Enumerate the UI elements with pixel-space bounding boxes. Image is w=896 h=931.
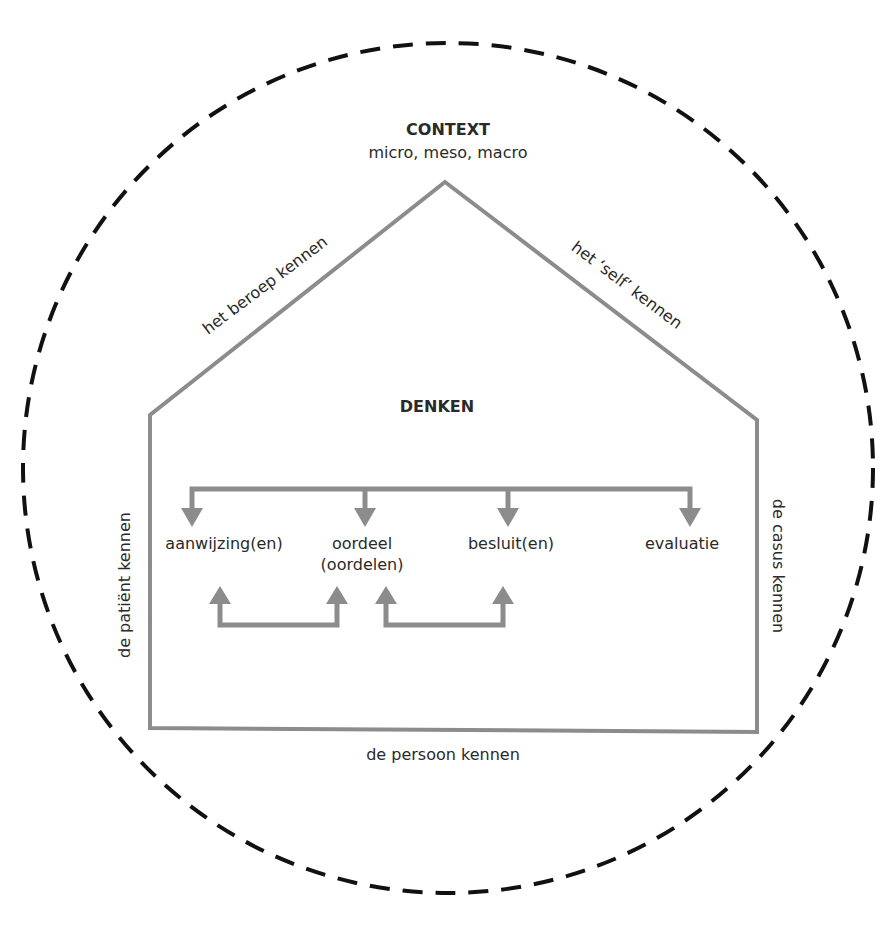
wall-left-label: de patiënt kennen [115,512,134,658]
house-outline [150,182,757,732]
step-oordeel-sub: (oordelen) [321,555,404,574]
wall-right-label: de casus kennen [769,499,788,633]
step-besluit: besluit(en) [468,534,554,553]
center-title: DENKEN [400,397,474,416]
step-aanwijzing: aanwijzing(en) [165,534,282,553]
step-oordeel: oordeel [332,534,392,553]
arrow-heads-down [181,508,701,527]
feedback-arrows [220,600,503,625]
diagram-canvas [0,0,896,931]
context-subtitle: micro, meso, macro [369,143,528,162]
step-evaluatie: evaluatie [645,534,719,553]
context-title: CONTEXT [406,120,490,139]
distribution-arrows [192,489,690,510]
wall-bottom-label: de persoon kennen [366,745,520,764]
arrow-heads-up [209,586,514,604]
